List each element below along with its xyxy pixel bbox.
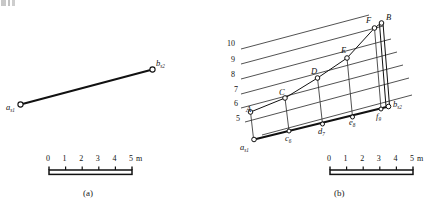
station-marker-a: [18, 102, 23, 107]
contour-label-9: 9: [231, 56, 235, 64]
contour-lines: [241, 15, 412, 135]
panel-a-graphic: [18, 67, 155, 107]
panel-caption-b: (b): [334, 188, 345, 198]
label-station-a-panel-a: as1: [6, 103, 15, 112]
scale-unit-label-a: m: [136, 155, 142, 163]
scale-unit-label-b: m: [417, 155, 423, 163]
label-point-E: E: [341, 46, 346, 55]
profile-line-B-b: [380, 23, 390, 107]
projection-line-a: [251, 112, 254, 139]
contour-line-9: [241, 26, 383, 64]
contour-label-8: 8: [231, 71, 235, 79]
label-point-A: A: [246, 105, 251, 114]
label-base-point-a: as1: [240, 143, 249, 152]
panel-b-graphic: [241, 15, 412, 142]
contour-line-10: [241, 15, 369, 49]
contour-label-10: 10: [227, 40, 235, 48]
scale-tick-label-b-0: 0: [327, 155, 331, 163]
label-point-D: D: [311, 67, 317, 76]
contour-label-6: 6: [234, 100, 238, 108]
scale-tick-label-a-0: 0: [46, 155, 50, 163]
scale-tick-label-a-4: 4: [112, 155, 116, 163]
point-marker-E: [345, 56, 350, 61]
point-marker-f: [379, 107, 383, 111]
scale-tick-label-a-3: 3: [96, 155, 100, 163]
projection-line-e: [347, 58, 353, 117]
contour-label-5: 5: [236, 115, 240, 123]
label-station-b-panel-a: bs2: [156, 59, 165, 68]
scale-bar-b: [330, 166, 413, 174]
label-base-point-c: c6: [285, 134, 291, 143]
label-base-point-d: d7: [318, 127, 325, 136]
point-marker-B: [379, 21, 384, 26]
station-marker-b: [150, 67, 155, 72]
figure-canvas: [0, 0, 427, 208]
scale-tick-label-a-5: 5: [129, 155, 133, 163]
projection-lines: [251, 28, 382, 139]
panel-caption-a: (a): [83, 188, 93, 198]
scale-tick-label-a-2: 2: [79, 155, 83, 163]
scale-tick-label-b-4: 4: [393, 155, 397, 163]
point-marker-F: [372, 26, 377, 31]
scale-tick-label-b-2: 2: [360, 155, 364, 163]
scale-bar-a: [49, 166, 132, 174]
line-a-to-b: [21, 70, 153, 105]
scale-tick-label-a-1: 1: [63, 155, 67, 163]
label-point-F: F: [366, 16, 371, 25]
label-base-point-b: bs2: [393, 100, 402, 109]
label-point-C: C: [279, 88, 285, 97]
projection-line-f: [375, 28, 382, 109]
scale-tick-label-b-1: 1: [344, 155, 348, 163]
scale-tick-label-b-5: 5: [410, 155, 414, 163]
label-base-point-f: f9: [376, 112, 381, 121]
label-point-B: B: [386, 13, 391, 22]
contour-label-7: 7: [234, 86, 238, 94]
projection-line-c: [285, 98, 289, 131]
point-marker-b: [386, 104, 391, 109]
point-marker-D: [315, 76, 320, 81]
scale-tick-label-b-3: 3: [377, 155, 381, 163]
label-base-point-e: e8: [349, 118, 355, 127]
point-marker-a: [252, 137, 257, 142]
